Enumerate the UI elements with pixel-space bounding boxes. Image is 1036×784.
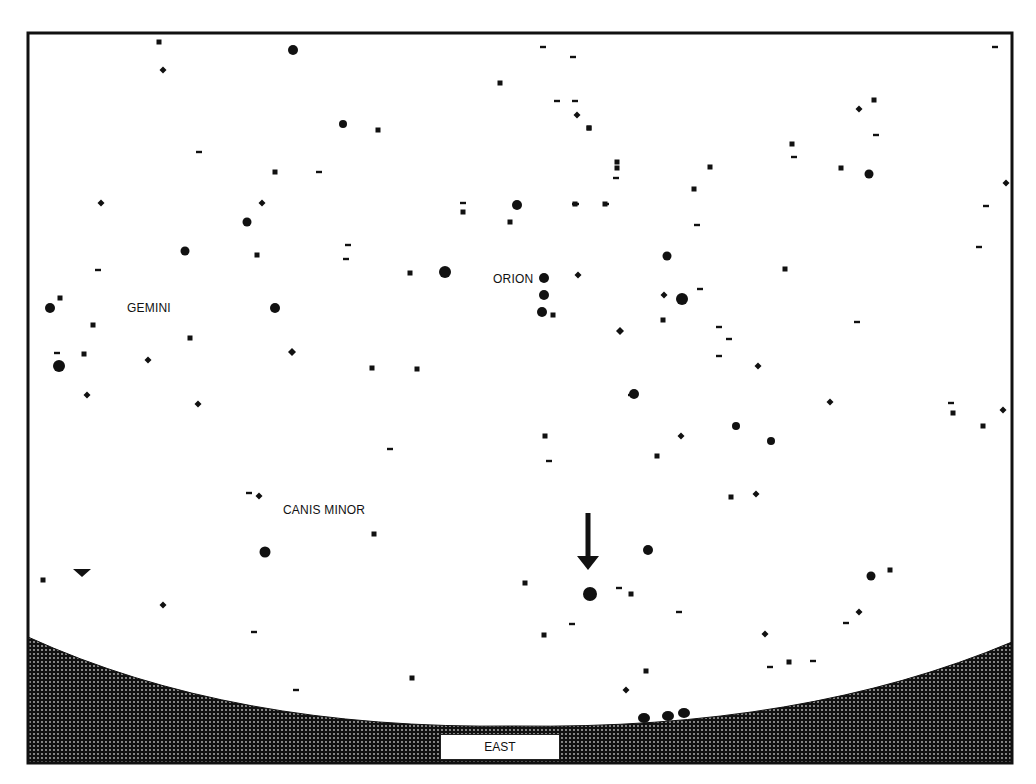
star-icon bbox=[508, 220, 513, 225]
star-icon bbox=[783, 267, 788, 272]
star-icon bbox=[53, 360, 65, 372]
star-icon bbox=[615, 160, 620, 165]
star-icon bbox=[767, 437, 775, 445]
star-icon bbox=[345, 244, 351, 246]
constellation-label-orion: ORION bbox=[493, 272, 533, 286]
star-icon bbox=[439, 266, 451, 278]
star-icon bbox=[82, 352, 87, 357]
star-icon bbox=[523, 581, 528, 586]
constellation-label-gemini: GEMINI bbox=[127, 301, 171, 315]
star-icon bbox=[343, 258, 349, 260]
star-icon bbox=[573, 202, 578, 207]
star-icon bbox=[540, 46, 546, 48]
star-icon bbox=[976, 246, 982, 248]
star-icon bbox=[461, 210, 466, 215]
star-icon bbox=[408, 271, 413, 276]
star-icon bbox=[498, 81, 503, 86]
star-icon bbox=[339, 120, 347, 128]
star-icon bbox=[694, 224, 700, 226]
star-icon bbox=[543, 434, 548, 439]
star-icon bbox=[628, 394, 634, 396]
star-chart bbox=[0, 0, 1036, 784]
tree-icon bbox=[678, 708, 690, 718]
star-icon bbox=[570, 56, 576, 58]
star-icon bbox=[387, 448, 393, 450]
star-icon bbox=[729, 495, 734, 500]
star-icon bbox=[616, 587, 622, 589]
star-icon bbox=[196, 151, 202, 153]
star-icon bbox=[542, 633, 547, 638]
sky-background bbox=[0, 0, 1036, 784]
star-icon bbox=[676, 293, 688, 305]
star-icon bbox=[983, 205, 989, 207]
star-icon bbox=[58, 296, 63, 301]
star-icon bbox=[539, 290, 549, 300]
star-icon bbox=[539, 273, 549, 283]
star-icon bbox=[45, 303, 55, 313]
star-icon bbox=[316, 171, 322, 173]
star-icon bbox=[843, 622, 849, 624]
star-icon bbox=[872, 98, 877, 103]
tree-icon bbox=[638, 713, 650, 723]
star-icon bbox=[661, 318, 666, 323]
star-icon bbox=[981, 424, 986, 429]
star-icon bbox=[708, 165, 713, 170]
star-icon bbox=[293, 689, 299, 691]
star-icon bbox=[372, 532, 377, 537]
star-icon bbox=[587, 126, 592, 131]
star-icon bbox=[948, 402, 954, 404]
star-icon bbox=[810, 660, 816, 662]
star-icon bbox=[460, 202, 466, 204]
star-icon bbox=[188, 336, 193, 341]
star-icon bbox=[787, 660, 792, 665]
star-icon bbox=[663, 252, 672, 261]
star-icon bbox=[888, 568, 893, 573]
star-icon bbox=[873, 134, 879, 136]
star-icon bbox=[551, 313, 556, 318]
star-icon bbox=[288, 45, 298, 55]
star-icon bbox=[790, 142, 795, 147]
star-icon bbox=[572, 100, 578, 102]
star-icon bbox=[243, 218, 252, 227]
star-icon bbox=[546, 460, 552, 462]
star-icon bbox=[95, 269, 101, 271]
star-icon bbox=[643, 545, 653, 555]
star-icon bbox=[644, 669, 649, 674]
star-icon bbox=[716, 326, 722, 328]
star-icon bbox=[692, 187, 697, 192]
star-icon bbox=[867, 572, 876, 581]
star-icon bbox=[865, 170, 874, 179]
star-icon bbox=[181, 247, 190, 256]
star-icon bbox=[655, 454, 660, 459]
star-icon bbox=[613, 177, 619, 179]
star-icon bbox=[676, 611, 682, 613]
constellation-label-canis-minor: CANIS MINOR bbox=[283, 503, 365, 517]
star-icon bbox=[512, 200, 522, 210]
direction-label-east: EAST bbox=[440, 734, 560, 760]
star-icon bbox=[41, 578, 46, 583]
star-icon bbox=[992, 46, 998, 48]
star-icon bbox=[251, 631, 257, 633]
star-icon bbox=[157, 40, 162, 45]
star-icon bbox=[615, 166, 620, 171]
star-icon bbox=[260, 547, 271, 558]
star-icon bbox=[791, 156, 797, 158]
star-icon bbox=[697, 288, 703, 290]
star-icon bbox=[629, 592, 634, 597]
star-icon bbox=[54, 352, 60, 354]
star-icon bbox=[951, 411, 956, 416]
star-icon bbox=[273, 170, 278, 175]
star-icon bbox=[415, 367, 420, 372]
star-icon bbox=[732, 422, 740, 430]
star-icon bbox=[583, 587, 597, 601]
star-icon bbox=[603, 202, 608, 207]
star-icon bbox=[726, 338, 732, 340]
star-icon bbox=[854, 321, 860, 323]
star-icon bbox=[246, 492, 252, 494]
star-icon bbox=[767, 666, 773, 668]
star-icon bbox=[839, 166, 844, 171]
star-icon bbox=[370, 366, 375, 371]
star-icon bbox=[91, 323, 96, 328]
star-icon bbox=[716, 355, 722, 357]
star-icon bbox=[270, 303, 280, 313]
